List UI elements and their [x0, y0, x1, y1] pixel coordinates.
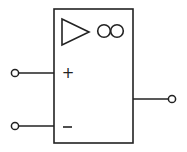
non-inverting-input: +	[11, 64, 74, 82]
inverting-input	[11, 122, 72, 129]
output-terminal-icon	[168, 95, 175, 102]
triangle-icon	[62, 19, 89, 45]
input-terminal-icon	[11, 69, 18, 76]
op-amp-diagram: ∞ +	[0, 0, 187, 152]
output	[133, 95, 176, 102]
input-terminal-icon	[11, 122, 18, 129]
infinity-icon	[98, 25, 124, 38]
plus-label: +	[62, 64, 75, 82]
